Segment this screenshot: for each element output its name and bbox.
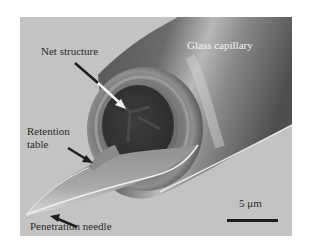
net-structure-label: Net structure bbox=[41, 45, 98, 57]
scale-bar bbox=[227, 219, 278, 222]
penetration-needle-label: Penetration needle bbox=[30, 220, 112, 232]
sem-micrograph: Net structure Glass capillary Retention … bbox=[20, 17, 292, 236]
retention-table-arrow bbox=[68, 148, 93, 163]
glass-capillary-label: Glass capillary bbox=[187, 39, 253, 51]
retention-table-label-line2: table bbox=[27, 138, 48, 150]
scale-bar-label: 5 μm bbox=[239, 197, 262, 209]
retention-table-label-line1: Retention bbox=[27, 125, 70, 137]
